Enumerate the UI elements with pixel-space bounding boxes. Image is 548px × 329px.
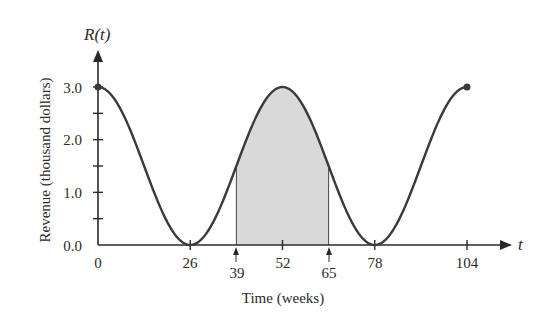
x-axis-label: Time (weeks) — [242, 290, 324, 307]
y-tick-label-1: 1.0 — [63, 185, 82, 201]
y-axis-label: Revenue (thousand dollars) — [37, 78, 54, 243]
x-tick-label-52: 52 — [276, 255, 291, 271]
y-tick-label-0: 0.0 — [63, 238, 82, 254]
arrow-39-icon — [233, 247, 239, 255]
start-point — [95, 84, 102, 91]
arrow-65-icon — [326, 247, 332, 255]
y-axis-arrow-icon — [93, 50, 103, 62]
end-point — [464, 84, 471, 91]
chart: R(t) t 3.0 2.0 1.0 0.0 0 26 39 52 65 78 … — [0, 0, 548, 329]
x-tick-label-78: 78 — [368, 255, 383, 271]
y-tick-label-2: 2.0 — [63, 132, 82, 148]
y-tick-label-3: 3.0 — [63, 80, 82, 96]
shaded-area — [236, 87, 328, 245]
x-axis-arrow-icon — [500, 240, 512, 250]
x-tick-label-104: 104 — [456, 255, 479, 271]
x-tick-label-39: 39 — [230, 265, 245, 281]
x-tick-label-65: 65 — [322, 265, 337, 281]
x-tick-label-0: 0 — [94, 255, 102, 271]
x-tick-label-26: 26 — [183, 255, 199, 271]
x-axis-name: t — [518, 235, 524, 254]
y-axis-name: R(t) — [83, 25, 111, 44]
